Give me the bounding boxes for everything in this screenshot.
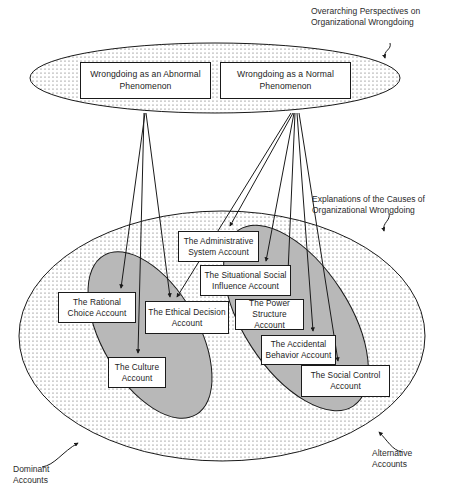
caption-alternative-accounts: Alternative Accounts	[372, 448, 450, 471]
node-ethical-decision-account[interactable]: The Ethical Decision Account	[145, 301, 229, 334]
node-wrongdoing-as-abnormal-phenomenon[interactable]: Wrongdoing as an Abnormal Phenomenon	[80, 62, 211, 99]
node-culture-account[interactable]: The Culture Account	[108, 357, 166, 388]
node-power-structure-account[interactable]: The Power Structure Account	[235, 299, 304, 330]
caption-explanations-of-causes: Explanations of the Causes of Organizati…	[312, 194, 451, 217]
leader-overarching	[385, 43, 391, 58]
figure-canvas: Overarching Perspectives on Organization…	[0, 0, 451, 504]
node-administrative-system-account[interactable]: The Administrative System Account	[178, 231, 259, 262]
node-wrongdoing-as-normal-phenomenon[interactable]: Wrongdoing as a Normal Phenomenon	[220, 62, 351, 99]
node-rational-choice-account[interactable]: The Rational Choice Account	[58, 292, 136, 323]
caption-dominant-accounts: Dominant Accounts	[13, 464, 93, 487]
node-social-control-account[interactable]: The Social Control Account	[301, 365, 390, 397]
node-accidental-behavior-account[interactable]: The Accidental Behavior Account	[261, 335, 336, 365]
caption-overarching-perspectives: Overarching Perspectives on Organization…	[311, 6, 449, 29]
node-situational-social-influence-account[interactable]: The Situational Social Influence Account	[200, 265, 291, 296]
